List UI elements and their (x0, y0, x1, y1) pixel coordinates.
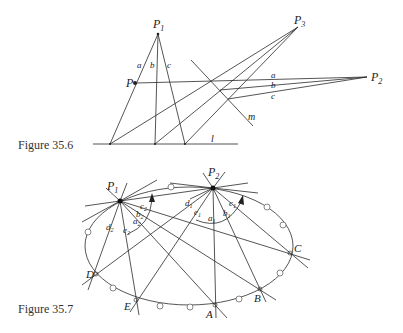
figure-35-6: P1 P3 P2 P a b c a b c m l Figure 35.6 (18, 13, 382, 152)
label-e: E (123, 300, 131, 312)
label-a1: a1 (208, 213, 216, 224)
label-c1: c1 (229, 198, 236, 209)
label-b: b (150, 60, 155, 70)
caption-figure-35-6: Figure 35.6 (18, 138, 73, 152)
label-p1-b: P1 (106, 179, 118, 195)
label-c-point: C (294, 242, 302, 254)
label-a-right: a (271, 70, 276, 80)
line-b-p1 (155, 34, 158, 144)
label-p2-b: P2 (207, 165, 219, 181)
point-p1 (157, 33, 160, 36)
label-m: m (248, 111, 255, 122)
label-p2: P2 (370, 70, 382, 86)
label-l: l (211, 133, 214, 144)
point-p (133, 81, 137, 85)
line-p3-3 (185, 27, 298, 144)
label-p1: P1 (152, 17, 164, 33)
label-d1: d1 (185, 198, 193, 209)
line-m (191, 60, 253, 126)
label-d2: d2 (106, 222, 114, 233)
line-a-p1 (110, 34, 158, 144)
label-c: c (167, 60, 171, 70)
label-d: D (85, 268, 94, 280)
label-e2: e2 (123, 225, 130, 236)
label-p3: P3 (293, 13, 305, 29)
label-c-right: c (271, 91, 275, 101)
label-a-point: A (205, 308, 213, 320)
point-p2 (211, 186, 216, 191)
label-b1: b1 (223, 208, 231, 219)
label-b-point: B (254, 292, 261, 304)
label-e1: e1 (194, 207, 201, 218)
geometry-figures: P1 P3 P2 P a b c a b c m l Figure 35.6 (0, 0, 403, 333)
arrow-head-p1 (149, 193, 155, 202)
caption-figure-35-7: Figure 35.7 (18, 302, 73, 316)
line-p3-2 (155, 27, 298, 144)
label-a: a (137, 60, 142, 70)
line-c-p1 (158, 34, 185, 144)
arrow-head-p2 (238, 195, 244, 205)
figure-35-7: P1 P2 D E A B C d1 e1 a1 b1 c1 d2 e2 a2 … (18, 165, 310, 320)
label-p: P (125, 76, 134, 90)
point-p1 (118, 199, 123, 204)
label-c2: c2 (140, 201, 147, 212)
label-b-right: b (271, 80, 276, 90)
